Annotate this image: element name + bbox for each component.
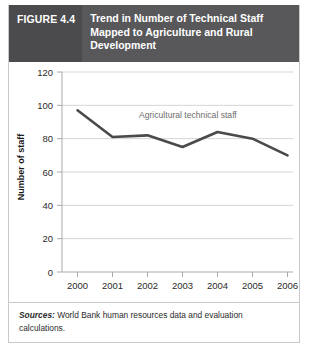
gridlines <box>62 72 293 239</box>
source-label: Sources: <box>19 310 55 320</box>
line-chart-plot: 120 100 80 60 40 20 0 2000 2001 2002 200… <box>9 62 301 307</box>
y-tick-label-60: 60 <box>42 167 53 178</box>
x-tick-label-2004: 2004 <box>207 280 228 291</box>
figure-number-label: FIGURE 4.4 <box>9 5 82 62</box>
x-tick-label-2002: 2002 <box>137 280 158 291</box>
chart-area: Number of staff <box>9 62 299 307</box>
y-tick-label-0: 0 <box>48 267 53 278</box>
x-tick-label-2000: 2000 <box>67 280 88 291</box>
figure-header: FIGURE 4.4 Trend in Number of Technical … <box>9 5 299 62</box>
y-tick-label-100: 100 <box>37 100 53 111</box>
x-tick-label-2003: 2003 <box>172 280 193 291</box>
y-tick-label-40: 40 <box>42 200 53 211</box>
y-tick-marks <box>57 72 62 272</box>
y-tick-label-80: 80 <box>42 133 53 144</box>
figure-container: FIGURE 4.4 Trend in Number of Technical … <box>8 5 300 343</box>
source-note: Sources: World Bank human resources data… <box>9 302 299 342</box>
y-tick-label-20: 20 <box>42 233 53 244</box>
figure-title: Trend in Number of Technical Staff Mappe… <box>82 5 299 61</box>
x-tick-label-2006: 2006 <box>277 280 298 291</box>
x-tick-label-2005: 2005 <box>242 280 263 291</box>
x-tick-label-2001: 2001 <box>102 280 123 291</box>
series-annotation-label: Agricultural technical staff <box>139 110 237 120</box>
y-tick-label-120: 120 <box>37 67 53 78</box>
x-tick-marks <box>78 272 288 277</box>
